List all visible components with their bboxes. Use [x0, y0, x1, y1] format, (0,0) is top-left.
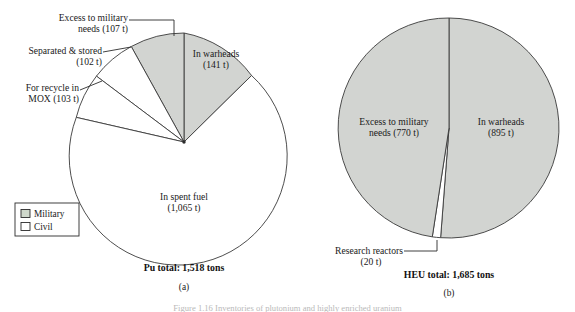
- label-heu-research-reactors-line1: Research reactors: [300, 245, 403, 257]
- label-pu-excess-to-military-line1: Excess to military: [0, 12, 128, 24]
- label-pu-in-warheads-line2: (141 t): [172, 59, 260, 71]
- label-heu-in-warheads-line1: In warheads: [462, 116, 540, 128]
- leader-line-excess-to-military: [129, 20, 174, 36]
- figure-caption: Figure 1.16 Inventories of plutonium and…: [0, 303, 575, 312]
- legend-swatch-military-icon: [21, 210, 30, 218]
- label-pu-separated-stored-line1: Separated & stored: [0, 45, 102, 57]
- panel-letter-b: (b): [409, 288, 489, 298]
- panel-letter-a: (a): [144, 282, 224, 292]
- total-label-plutonium: Pu total: 1,518 tons: [104, 262, 264, 273]
- legend-label-military: Military: [34, 209, 64, 219]
- label-heu-research-reactors-line2: (20 t): [340, 256, 402, 268]
- legend-swatch-civil-icon: [21, 223, 30, 231]
- label-heu-excess-to-military-line2: needs (770 t): [340, 127, 448, 139]
- total-label-heu: HEU total: 1,685 tons: [369, 269, 529, 280]
- label-pu-separated-stored-line2: (102 t): [0, 56, 102, 68]
- label-heu-in-warheads-line2: (895 t): [462, 127, 540, 139]
- figure-container: Military Civil Excess to military needs …: [0, 0, 575, 312]
- legend-label-civil: Civil: [34, 222, 53, 232]
- label-pu-excess-to-military-line2: needs (107 t): [0, 23, 128, 35]
- label-pu-for-recycle-mox-line1: For recycle in: [0, 82, 79, 94]
- leader-line-research-reactors: [404, 240, 437, 251]
- label-heu-excess-to-military-line1: Excess to military: [340, 116, 448, 128]
- label-pu-in-warheads-line1: In warheads: [172, 48, 260, 60]
- label-pu-in-spent-fuel-line1: In spent fuel: [136, 191, 232, 203]
- label-pu-in-spent-fuel-line2: (1,065 t): [136, 202, 232, 214]
- label-pu-for-recycle-mox-line2: MOX (103 t): [0, 93, 79, 105]
- pie-center-marker-plutonium: [182, 140, 185, 143]
